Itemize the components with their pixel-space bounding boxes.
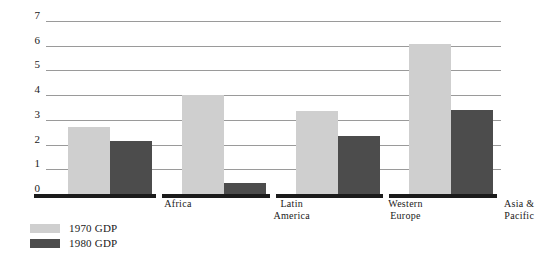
legend-label-1970: 1970 GDP [69,223,117,234]
bar-1970-group-2 [296,111,338,194]
category-label-1: LatinAmerica [247,198,337,222]
legend-swatch-1980-icon [30,239,60,248]
category-label-0-line-0: Africa [133,198,223,210]
plot-area [46,21,501,194]
bar-1970-group-3 [409,44,451,194]
gridline-7 [46,21,501,22]
category-label-2: WesternEurope [361,198,451,222]
y-tick-2: 2 [0,134,40,145]
category-label-0: Africa [133,198,223,210]
bar-1980-group-2 [338,136,380,194]
category-label-3: Asia &Pacific [474,198,539,222]
bar-1970-group-0 [68,127,110,194]
category-label-2-line-0: Western [361,198,451,210]
y-tick-4: 4 [0,84,40,95]
category-label-2-line-1: Europe [361,210,451,222]
y-tick-1: 1 [0,158,40,169]
y-tick-3: 3 [0,109,40,120]
y-tick-6: 6 [0,35,40,46]
y-tick-0: 0 [0,183,40,194]
legend-swatch-1970-icon [30,224,60,233]
legend: 1970 GDP 1980 GDP [30,221,117,251]
category-label-3-line-1: Pacific [474,210,539,222]
y-tick-5: 5 [0,59,40,70]
category-label-1-line-0: Latin [247,198,337,210]
bar-1970-group-1 [182,95,224,194]
category-label-3-line-0: Asia & [474,198,539,210]
y-tick-7: 7 [0,10,40,21]
legend-item-1980[interactable]: 1980 GDP [30,236,117,251]
bar-1980-group-1 [224,183,266,194]
legend-item-1970[interactable]: 1970 GDP [30,221,117,236]
category-label-1-line-1: America [247,210,337,222]
bar-1980-group-0 [110,141,152,194]
bar-1980-group-3 [451,110,493,194]
legend-label-1980: 1980 GDP [69,238,117,249]
